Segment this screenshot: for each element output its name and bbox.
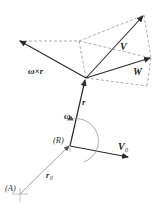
svg-text:0: 0 (125, 147, 128, 153)
svg-text:0: 0 (50, 175, 53, 181)
V-label: V (120, 41, 128, 52)
r0-vector (20, 146, 69, 194)
vector-diagram: ω×r V W r ω (R) V 0 (A) r 0 (0, 0, 157, 212)
A-label: (A) (5, 183, 16, 193)
R-label: (R) (53, 135, 64, 145)
omega-label: ω (64, 111, 71, 121)
V0-label: V 0 (118, 141, 128, 153)
r-vector (70, 80, 85, 146)
omega-rotation-arc (68, 119, 98, 162)
omega-cross-r-label: ω×r (28, 66, 44, 76)
r-label: r (82, 97, 86, 107)
r0-label: r 0 (46, 171, 53, 181)
W-label: W (133, 66, 143, 77)
